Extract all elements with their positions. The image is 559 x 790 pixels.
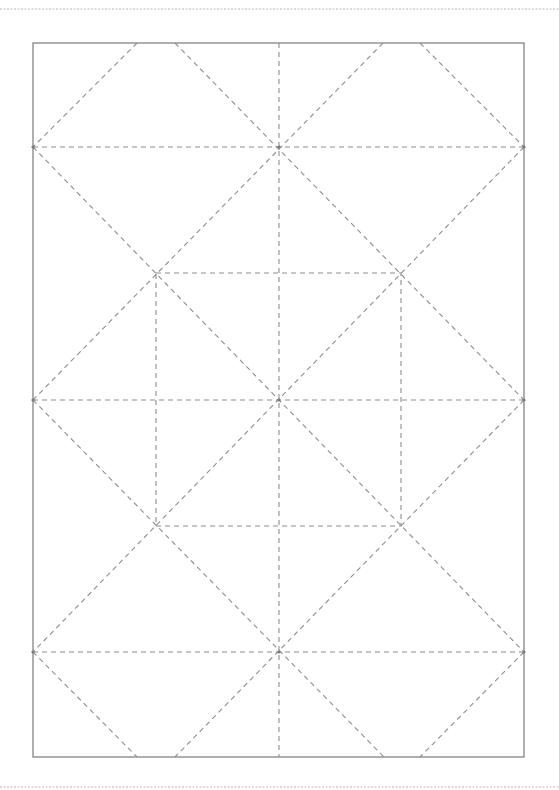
diagonal-crease <box>420 43 524 147</box>
reference-point-marker <box>522 398 525 401</box>
diagonal-crease <box>33 652 137 757</box>
diagonal-crease <box>420 652 524 757</box>
diagonal-crease <box>33 43 137 147</box>
crease-pattern-diagram <box>0 0 559 790</box>
diagonal-crease <box>175 400 524 757</box>
reference-point-marker <box>31 145 34 148</box>
reference-point-marker <box>522 650 525 653</box>
reference-point-marker <box>31 398 34 401</box>
reference-point-marker <box>277 398 280 401</box>
diagonal-crease <box>175 43 524 400</box>
reference-point-marker <box>277 650 280 653</box>
reference-point-marker <box>31 650 34 653</box>
reference-point-marker <box>522 145 525 148</box>
reference-point-marker <box>277 145 280 148</box>
diagonal-crease <box>33 43 383 400</box>
